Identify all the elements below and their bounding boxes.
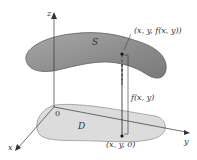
y-axis-arrow (184, 130, 190, 135)
height-label: f(x, y) (131, 94, 154, 102)
surface-label: S (92, 38, 98, 47)
diagram-graphics (0, 0, 197, 160)
z-axis-label: z (47, 10, 51, 18)
bottom-point (120, 134, 123, 137)
x-axis-arrow (15, 144, 21, 151)
top-point (120, 52, 123, 55)
region-label: D (78, 122, 85, 131)
top-point-label: (x, y, f(x, y)) (134, 27, 182, 35)
z-axis-arrow (51, 12, 57, 19)
bottom-point-label: (x, y, 0) (106, 141, 135, 149)
x-axis-label: x (8, 144, 13, 152)
origin-label: 0 (55, 110, 60, 118)
y-axis-label: y (184, 138, 189, 146)
surface-integral-diagram: z y x 0 S D (x, y, f(x, y)) (x, y, 0) f(… (0, 0, 197, 160)
